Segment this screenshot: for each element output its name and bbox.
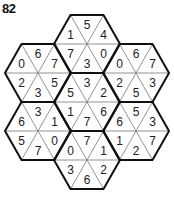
triangle-number-lower-right: 2 [100, 163, 107, 177]
triangle-number-top: 3 [35, 105, 42, 119]
triangle-number-lower-right: 7 [149, 134, 156, 148]
triangle-number-upper-left: 0 [18, 57, 25, 71]
triangle-number-upper-right: 7 [149, 57, 156, 71]
triangle-number-top: 7 [84, 134, 91, 148]
triangle-number-upper-right: 1 [51, 115, 58, 129]
triangle-number-bottom: 2 [133, 144, 140, 158]
triangle-number-lower-right: 0 [51, 134, 58, 148]
triangle-number-upper-right: 1 [100, 144, 107, 158]
triangle-number-lower-left: 2 [18, 76, 25, 90]
triangle-number-lower-left: 5 [18, 134, 25, 148]
triangle-number-upper-right: 2 [100, 86, 107, 100]
triangle-number-upper-left: 0 [67, 144, 74, 158]
triangle-number-lower-left: 2 [116, 76, 123, 90]
triangle-number-lower-left: 3 [67, 163, 74, 177]
triangle-number-upper-right: 4 [100, 28, 107, 42]
triangle-number-top: 3 [84, 76, 91, 90]
triangle-number-top: 6 [35, 47, 42, 61]
triangle-number-upper-left: 6 [18, 115, 25, 129]
triangle-number-upper-right: 7 [51, 57, 58, 71]
triangle-number-upper-right: 3 [149, 115, 156, 129]
triangle-number-lower-left: 1 [116, 134, 123, 148]
triangle-number-lower-left: 7 [67, 47, 74, 61]
triangle-number-lower-right: 5 [51, 76, 58, 90]
triangle-number-top: 5 [133, 105, 140, 119]
triangle-number-upper-left: 6 [116, 115, 123, 129]
triangle-number-top: 6 [133, 47, 140, 61]
triangle-number-lower-right: 6 [100, 105, 107, 119]
triangle-number-lower-left: 1 [67, 105, 74, 119]
triangle-number-bottom: 7 [84, 115, 91, 129]
triangle-number-bottom: 3 [35, 86, 42, 100]
triangle-number-upper-left: 5 [67, 86, 74, 100]
triangle-number-lower-right: 0 [100, 47, 107, 61]
triangle-number-upper-left: 0 [116, 57, 123, 71]
triangle-number-bottom: 3 [84, 57, 91, 71]
triangle-number-lower-right: 3 [149, 76, 156, 90]
triangle-number-top: 5 [84, 18, 91, 32]
triangle-number-bottom: 7 [35, 144, 42, 158]
triangle-number-bottom: 6 [84, 173, 91, 187]
triangle-number-bottom: 5 [133, 86, 140, 100]
triangle-number-upper-left: 1 [67, 28, 74, 42]
hex-puzzle-board: 4037157532067352062671531075633721651263… [0, 0, 174, 197]
